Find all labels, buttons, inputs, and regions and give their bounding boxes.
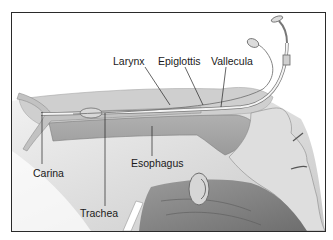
label-esophagus: Esophagus	[131, 158, 184, 169]
label-vallecula: Vallecula	[211, 56, 253, 67]
diagram-frame: Larynx Epiglottis Vallecula Carina Esoph…	[11, 12, 326, 232]
intubation-illustration	[12, 13, 325, 231]
label-epiglottis: Epiglottis	[158, 56, 201, 67]
label-larynx: Larynx	[113, 56, 145, 67]
ear	[189, 173, 209, 205]
label-carina: Carina	[33, 168, 64, 179]
label-trachea: Trachea	[80, 208, 118, 219]
